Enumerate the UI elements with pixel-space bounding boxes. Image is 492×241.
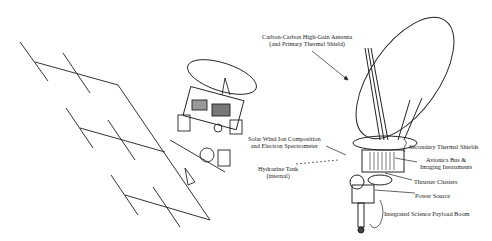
diagram-canvas: Carbon-Carbon High-Gain Antenna (and Pri… — [0, 0, 492, 241]
power-label: Power Source — [415, 192, 450, 199]
spacecraft-left — [170, 53, 261, 185]
secondary-shields-label: Secondary Thermal Shields — [409, 143, 478, 150]
avionics-label-line1: Avionics Bus & — [420, 156, 472, 163]
avionics-label: Avionics Bus & Imaging Instruments — [420, 156, 472, 170]
spacecraft-right — [337, 1, 473, 233]
boom-label: Integrated Science Payload Boom — [384, 210, 470, 217]
solar-wind-label: Solar Wind Ion Composition and Electron … — [248, 135, 321, 149]
avionics-label-line2: Imaging Instruments — [420, 163, 472, 170]
solar-wind-label-line1: Solar Wind Ion Composition — [248, 135, 321, 142]
thrusters-label: Thruster Clusters — [414, 178, 458, 185]
antenna-label-line2: (and Primary Thermal Shield) — [262, 40, 352, 47]
antenna-label: Carbon-Carbon High-Gain Antenna (and Pri… — [262, 33, 352, 47]
hydrazine-label-line1: Hydrazine Tank — [258, 165, 298, 172]
solar-wind-label-line2: and Electron Spectrometer — [248, 142, 321, 149]
spacecraft-drawings — [0, 0, 492, 241]
solar-array-left — [20, 42, 210, 227]
antenna-label-line1: Carbon-Carbon High-Gain Antenna — [262, 33, 352, 40]
hydrazine-label: Hydrazine Tank (internal) — [258, 165, 298, 179]
hydrazine-label-line2: (internal) — [258, 172, 298, 179]
